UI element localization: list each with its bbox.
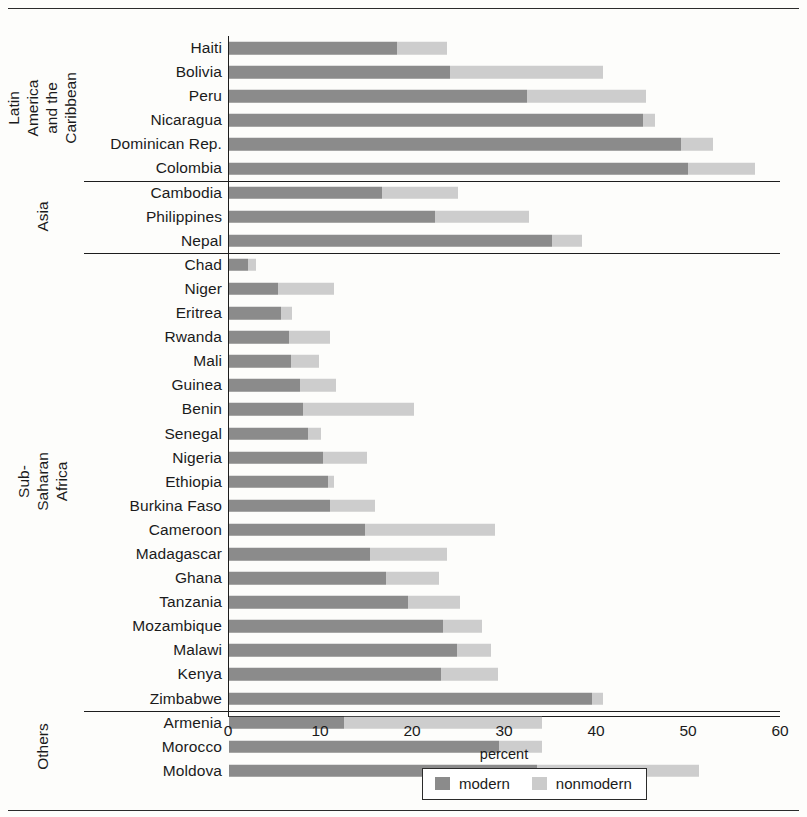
group-label-text: Sub-SaharanAfrica (14, 440, 71, 524)
chart-row: Bolivia (0, 60, 807, 84)
chart-row: Colombia (0, 156, 807, 180)
chart-row: Nicaragua (0, 108, 807, 132)
chart-row: Zimbabwe (0, 687, 807, 711)
bar-segment-nonmodern (443, 620, 482, 633)
group-label-text: Latin Americaand theCaribbean (4, 66, 80, 150)
stacked-bar (229, 210, 781, 223)
chart-row: Mozambique (0, 614, 807, 638)
stacked-bar (229, 283, 781, 296)
x-tick-label: 60 (771, 722, 788, 740)
bar-segment-modern (229, 692, 592, 705)
stacked-bar (229, 548, 781, 561)
stacked-bar (229, 114, 781, 127)
bar-segment-nonmodern (450, 66, 604, 79)
bar-segment-nonmodern (303, 403, 414, 416)
stacked-bar (229, 379, 781, 392)
bar-segment-modern (229, 572, 386, 585)
bar-segment-nonmodern (681, 138, 713, 151)
bar-segment-modern (229, 235, 552, 248)
bar-segment-nonmodern (397, 42, 447, 55)
bar-segment-modern (229, 355, 291, 368)
bar-segment-nonmodern (300, 379, 336, 392)
page-bottom-rule (8, 810, 799, 811)
x-tick-label: 30 (495, 722, 512, 740)
bar-segment-modern (229, 475, 328, 488)
chart-page: HaitiBoliviaPeruNicaraguaDominican Rep.C… (0, 0, 807, 817)
bar-segment-nonmodern (527, 90, 646, 103)
chart-row: Ethiopia (0, 470, 807, 494)
legend-swatch-modern-icon (435, 777, 450, 790)
x-tick-label: 10 (311, 722, 328, 740)
x-tick-label: 40 (587, 722, 604, 740)
stacked-bar (229, 524, 781, 537)
chart-row: Niger (0, 277, 807, 301)
chart-row: Benin (0, 397, 807, 421)
chart-rows: HaitiBoliviaPeruNicaraguaDominican Rep.C… (0, 36, 807, 783)
bar-segment-nonmodern (435, 210, 529, 223)
group-separator (84, 711, 780, 712)
chart-row: Nepal (0, 229, 807, 253)
chart-row: Burkina Faso (0, 494, 807, 518)
stacked-bar (229, 259, 781, 272)
stacked-bar (229, 403, 781, 416)
chart-row: Eritrea (0, 301, 807, 325)
chart-row: Philippines (0, 205, 807, 229)
legend-item-modern: modern (435, 775, 510, 792)
bar-segment-modern (229, 668, 441, 681)
bar-segment-nonmodern (382, 186, 458, 199)
bar-segment-nonmodern (323, 451, 367, 464)
group-label-sub-saharan-africa: Sub-SaharanAfrica (0, 253, 84, 711)
chart-row: Dominican Rep. (0, 132, 807, 156)
x-axis-ticks: 0102030405060 (0, 722, 807, 742)
bar-segment-modern (229, 66, 450, 79)
x-tick-label: 50 (679, 722, 696, 740)
bar-segment-modern (229, 427, 308, 440)
bar-segment-modern (229, 186, 382, 199)
stacked-bar (229, 668, 781, 681)
stacked-bar (229, 644, 781, 657)
bar-segment-nonmodern (441, 668, 498, 681)
chart-row: Cameroon (0, 518, 807, 542)
bar-segment-modern (229, 548, 370, 561)
bar-segment-modern (229, 90, 527, 103)
bar-segment-nonmodern (308, 427, 321, 440)
bar-segment-nonmodern (289, 331, 330, 344)
stacked-bar (229, 90, 781, 103)
bar-segment-modern (229, 596, 408, 609)
x-axis-title: percent (228, 746, 780, 762)
chart-row: Cambodia (0, 181, 807, 205)
stacked-bar (229, 620, 781, 633)
legend-label-modern: modern (459, 775, 510, 792)
chart-row: Haiti (0, 36, 807, 60)
legend-item-nonmodern: nonmodern (532, 775, 632, 792)
stacked-bar (229, 235, 781, 248)
bar-segment-nonmodern (365, 524, 495, 537)
bar-segment-modern (229, 307, 281, 320)
bar-segment-modern (229, 403, 303, 416)
stacked-bar (229, 572, 781, 585)
chart-row: Mali (0, 349, 807, 373)
bar-segment-modern (229, 42, 397, 55)
bar-segment-modern (229, 162, 688, 175)
bar-segment-modern (229, 500, 330, 513)
stacked-bar (229, 596, 781, 609)
group-separator (84, 253, 780, 254)
stacked-bar (229, 500, 781, 513)
chart-row: Ghana (0, 566, 807, 590)
bar-segment-nonmodern (370, 548, 447, 561)
bar-segment-modern (229, 114, 643, 127)
bar-segment-modern (229, 210, 435, 223)
bar-segment-nonmodern (408, 596, 460, 609)
chart-row: Senegal (0, 422, 807, 446)
bar-segment-nonmodern (328, 475, 334, 488)
bar-segment-nonmodern (248, 259, 255, 272)
chart-row: Nigeria (0, 446, 807, 470)
bar-segment-nonmodern (688, 162, 755, 175)
bar-segment-nonmodern (291, 355, 320, 368)
bar-segment-modern (229, 331, 289, 344)
chart-row: Peru (0, 84, 807, 108)
bar-segment-modern (229, 644, 457, 657)
bar-segment-modern (229, 379, 300, 392)
stacked-bar (229, 331, 781, 344)
group-separator (84, 181, 780, 182)
